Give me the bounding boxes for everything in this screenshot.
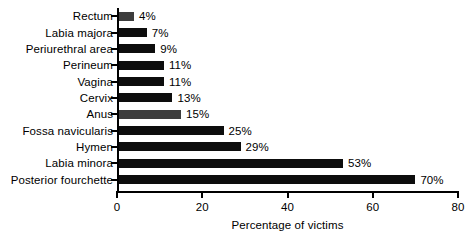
- bar-value-label: 25%: [229, 125, 252, 137]
- x-axis-tick-label: 0: [97, 201, 137, 214]
- bar: [117, 175, 415, 184]
- x-axis-tick-label: 60: [353, 201, 393, 214]
- bar: [117, 28, 147, 37]
- x-axis-tick: [116, 191, 118, 198]
- y-axis-label: Posterior fourchette: [0, 174, 113, 186]
- bar: [117, 126, 224, 135]
- bar-value-label: 70%: [420, 174, 443, 186]
- bar: [117, 159, 343, 168]
- bar-value-label: 53%: [348, 157, 371, 169]
- y-axis-label: Rectum: [0, 10, 113, 22]
- bar: [117, 142, 241, 151]
- bar-chart: RectumLabia majoraPeriurethral areaPerin…: [0, 0, 474, 241]
- x-axis-tick-label: 80: [438, 201, 474, 214]
- bar-value-label: 11%: [169, 76, 191, 88]
- x-axis-tick: [372, 191, 374, 198]
- bar-value-label: 11%: [169, 59, 191, 71]
- x-axis-tick-label: 40: [268, 201, 308, 214]
- bar: [117, 110, 181, 119]
- bar-value-label: 15%: [186, 108, 209, 120]
- y-axis-label: Cervix: [0, 92, 113, 104]
- y-axis-label: Labia majora: [0, 27, 113, 39]
- y-axis-label: Periurethral area: [0, 43, 113, 55]
- bar: [117, 44, 155, 53]
- bar-value-label: 4%: [139, 10, 156, 22]
- y-axis-label: Hymen: [0, 141, 113, 153]
- y-axis-label: Perineum: [0, 59, 113, 71]
- bar: [117, 61, 164, 70]
- x-axis-tick: [457, 191, 459, 198]
- y-axis-category-labels: RectumLabia majoraPeriurethral areaPerin…: [0, 8, 113, 191]
- y-axis-label: Anus: [0, 108, 113, 120]
- bar: [117, 12, 134, 21]
- y-axis-label: Vagina: [0, 76, 113, 88]
- x-axis-tick: [287, 191, 289, 198]
- bar-value-label: 9%: [160, 43, 177, 55]
- x-axis-tick: [201, 191, 203, 198]
- bar: [117, 93, 172, 102]
- x-axis-title: Percentage of victims: [117, 219, 458, 232]
- bar: [117, 77, 164, 86]
- bar-value-label: 13%: [177, 92, 200, 104]
- y-axis-line: [117, 8, 119, 192]
- bar-value-label: 7%: [152, 27, 169, 39]
- bar-value-label: 29%: [246, 141, 269, 153]
- x-axis-tick-label: 20: [182, 201, 222, 214]
- y-axis-label: Fossa navicularis: [0, 125, 113, 137]
- y-axis-label: Labia minora: [0, 157, 113, 169]
